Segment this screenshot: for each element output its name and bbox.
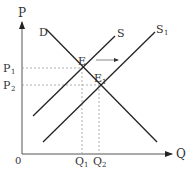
equilibrium-label: E [78, 55, 86, 68]
svg-text:Q: Q [93, 155, 102, 168]
origin-label: 0 [15, 155, 21, 166]
svg-text:1: 1 [84, 161, 88, 169]
quantity-tick-q1: Q 1 [75, 155, 88, 169]
supply-curve [33, 36, 115, 116]
svg-text:S: S [156, 23, 164, 36]
supply-shifted-label: S 1 [156, 23, 168, 37]
price-tick-p2: P 2 [3, 79, 15, 93]
equilibrium-new-label: E 1 [94, 72, 106, 86]
y-axis-label: P [18, 6, 26, 20]
svg-text:P: P [3, 79, 11, 92]
svg-text:2: 2 [102, 161, 106, 169]
supply-demand-diagram: P Q 0 D S S 1 E E 1 P 1 P 2 Q 1 Q 2 [0, 0, 193, 176]
supply-label: S [117, 27, 125, 40]
x-axis-label: Q [176, 147, 186, 161]
svg-text:1: 1 [102, 78, 106, 86]
demand-label: D [39, 26, 48, 39]
svg-text:E: E [94, 72, 102, 85]
svg-text:P: P [3, 62, 11, 75]
price-tick-p1: P 1 [3, 62, 15, 76]
svg-text:1: 1 [164, 29, 168, 37]
svg-text:1: 1 [11, 68, 15, 76]
svg-text:2: 2 [11, 85, 15, 93]
quantity-tick-q2: Q 2 [93, 155, 106, 169]
svg-text:Q: Q [75, 155, 84, 168]
